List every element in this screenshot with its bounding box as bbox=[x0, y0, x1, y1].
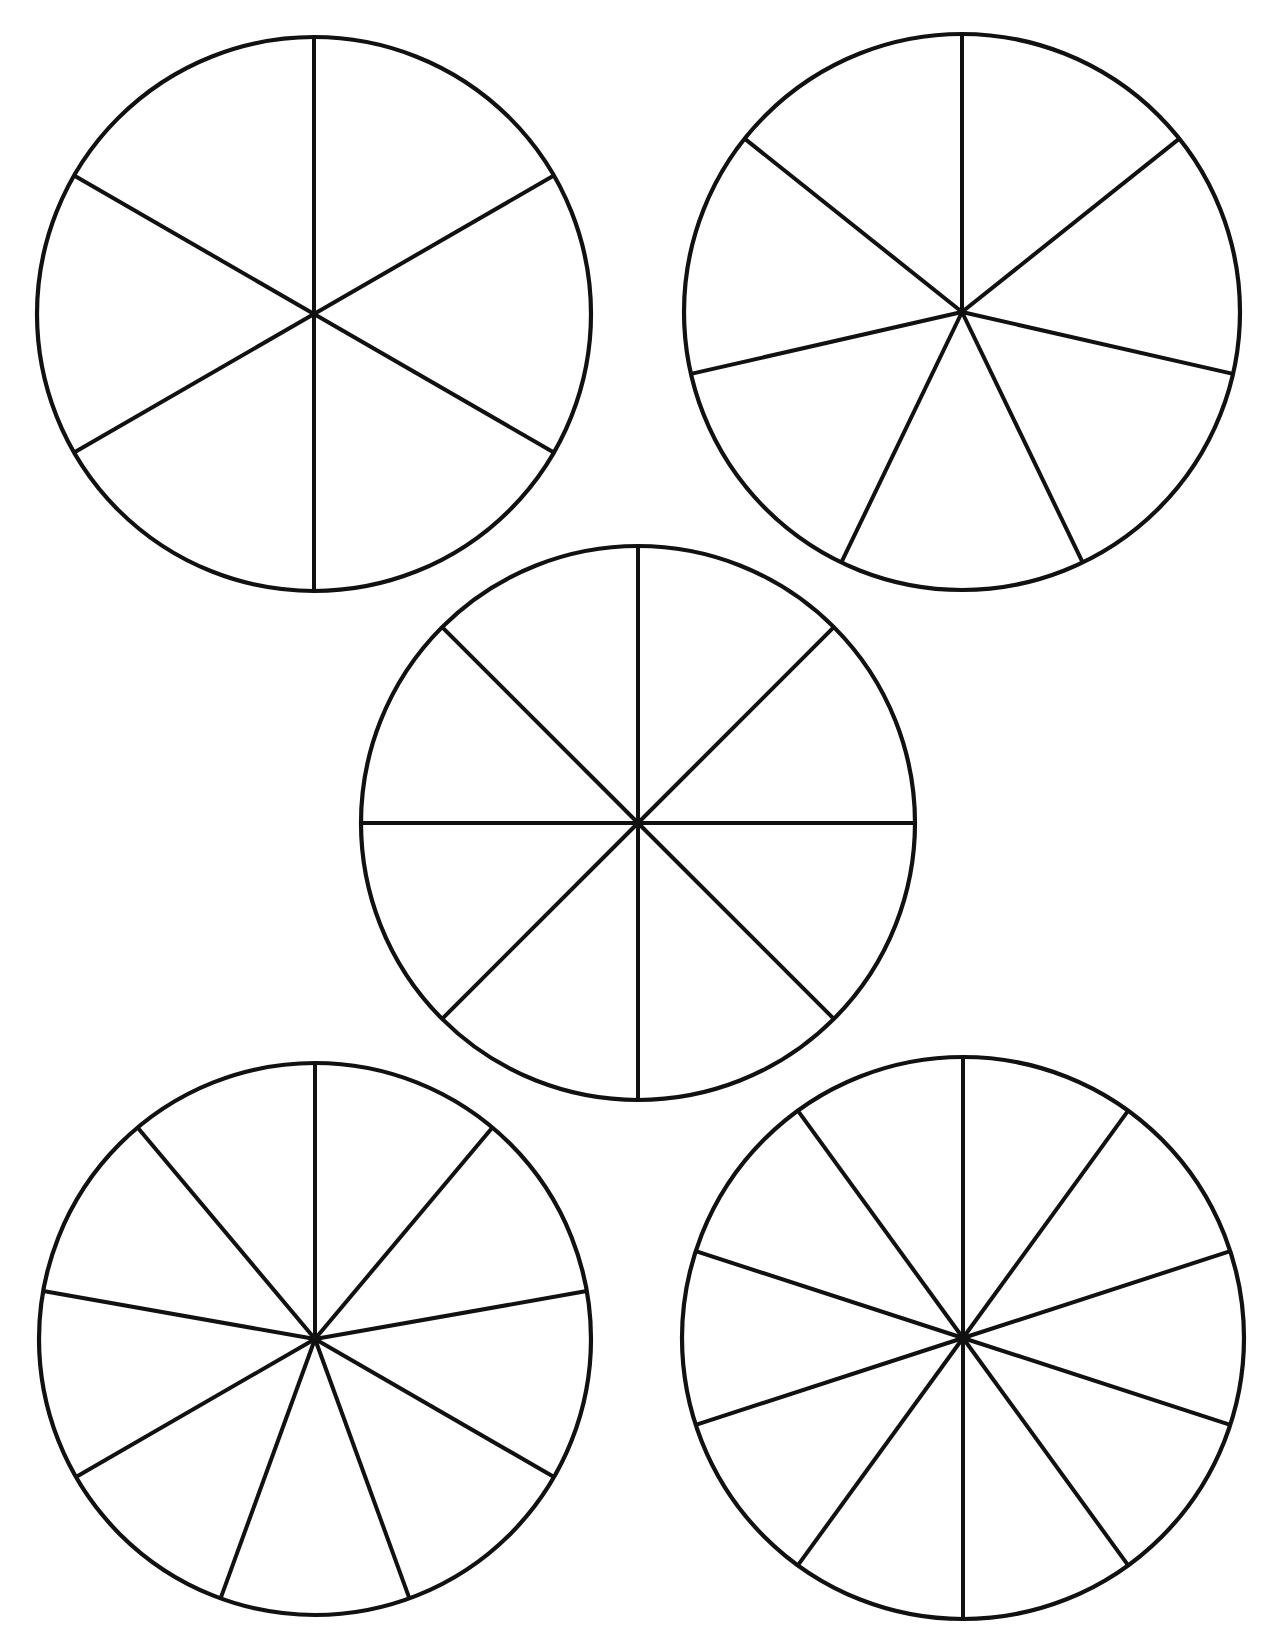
fraction-circle-6 bbox=[37, 37, 591, 591]
sector-divider-line bbox=[315, 1339, 409, 1598]
sector-divider-line bbox=[138, 1128, 315, 1339]
sector-divider-line bbox=[696, 1251, 963, 1338]
sector-divider-line bbox=[314, 176, 554, 315]
sector-divider-line bbox=[315, 1291, 587, 1339]
sector-divider-line bbox=[841, 312, 962, 562]
sector-divider-line bbox=[798, 1111, 963, 1338]
sector-divider-line bbox=[74, 314, 314, 453]
sector-divider-line bbox=[76, 1339, 315, 1477]
sector-divider-line bbox=[962, 139, 1179, 312]
sector-divider-line bbox=[442, 823, 638, 1019]
sector-divider-line bbox=[962, 312, 1083, 562]
sector-divider-line bbox=[74, 176, 314, 315]
sector-divider-line bbox=[696, 1338, 963, 1425]
sector-divider-line bbox=[962, 312, 1233, 374]
fraction-circle-8 bbox=[361, 546, 915, 1100]
sector-divider-line bbox=[691, 312, 962, 374]
fraction-circle-10 bbox=[682, 1057, 1244, 1619]
sector-divider-line bbox=[638, 823, 834, 1019]
sector-divider-line bbox=[963, 1338, 1230, 1425]
fraction-circle-7 bbox=[684, 34, 1240, 590]
fraction-circle-9 bbox=[39, 1063, 591, 1615]
sector-divider-line bbox=[314, 314, 554, 453]
sector-divider-line bbox=[745, 139, 962, 312]
sector-divider-line bbox=[963, 1111, 1128, 1338]
sector-divider-line bbox=[43, 1291, 315, 1339]
sector-divider-line bbox=[442, 627, 638, 823]
sector-divider-line bbox=[315, 1339, 554, 1477]
sector-divider-line bbox=[315, 1128, 492, 1339]
fraction-circles-worksheet bbox=[0, 0, 1271, 1632]
sector-divider-line bbox=[638, 627, 834, 823]
sector-divider-line bbox=[798, 1338, 963, 1565]
sector-divider-line bbox=[963, 1338, 1128, 1565]
sector-divider-line bbox=[221, 1339, 315, 1598]
sector-divider-line bbox=[963, 1251, 1230, 1338]
